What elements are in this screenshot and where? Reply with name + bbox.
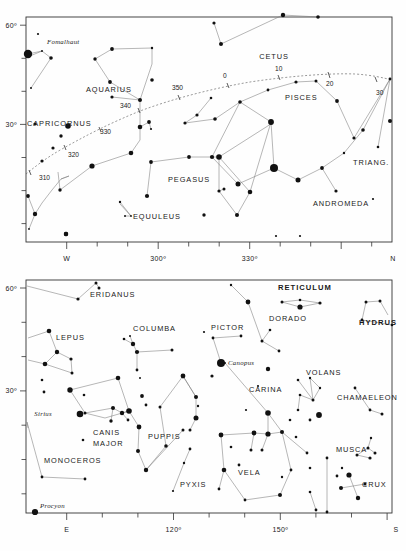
- top-const-CETUS: CETUS: [259, 52, 289, 61]
- ecliptic-label-330: 330: [100, 128, 111, 135]
- top-y-tick-60: 60º: [5, 22, 17, 29]
- top-panel-svg: 60º 30º W 300º 330º N: [0, 0, 406, 275]
- top-const-ANDROMEDA: ANDROMEDA: [313, 199, 369, 208]
- top-const-CAPRICORNUS: CAPRICORNUS: [27, 119, 92, 128]
- bottom-y-axis-ticks: [20, 288, 26, 494]
- bottom-y-tick-60: 60º: [5, 285, 17, 292]
- star-chart-figure: 60º 30º W 300º 330º N: [0, 0, 406, 551]
- bottom-star-label-procyon: Procyon: [39, 502, 65, 509]
- bottom-panel-svg: 60º 30º E 120º 150º S: [0, 270, 406, 551]
- bottom-x-tick-S: S: [393, 526, 398, 533]
- top-const-TRIANG: TRIANG.: [353, 158, 389, 167]
- bottom-const-MONOCEROS: MONOCEROS: [44, 456, 101, 465]
- top-const-PISCES: PISCES: [285, 93, 318, 102]
- bottom-const-DORADO: DORADO: [269, 314, 307, 323]
- bottom-star-label-canopus: Canopus: [228, 359, 254, 366]
- bottom-const-MAJOR: MAJOR: [93, 439, 123, 448]
- bottom-const-MUSCA: MUSCA: [336, 445, 367, 454]
- ecliptic-label-350: 350: [172, 84, 183, 91]
- ecliptic-label-10: 10: [275, 65, 283, 72]
- bottom-const-CARINA: CARINA: [249, 385, 282, 394]
- top-plot-frame: [26, 17, 392, 242]
- bottom-star-label-sirius: Sirius: [34, 410, 52, 417]
- top-sky-panel: 60º 30º W 300º 330º N: [0, 0, 406, 275]
- bottom-sky-panel: 60º 30º E 120º 150º S: [0, 270, 406, 551]
- bottom-y-tick-30: 30º: [5, 387, 17, 394]
- bottom-const-CHAMAELEON: CHAMAELEON: [337, 393, 398, 402]
- top-x-tick-W: W: [63, 255, 70, 262]
- top-const-AQUARIUS: AQUARIUS: [86, 85, 132, 94]
- ecliptic-label-0: 0: [223, 72, 227, 79]
- top-x-axis-ticks: [67, 242, 372, 249]
- ecliptic-label-340: 340: [120, 102, 131, 109]
- bottom-const-RETICULUM: RETICULUM: [278, 283, 332, 292]
- bottom-const-PICTOR: PICTOR: [211, 323, 244, 332]
- bottom-const-PUPPIS: PUPPIS: [148, 432, 181, 441]
- ecliptic-label-320: 320: [68, 151, 79, 158]
- bottom-x-tick-150: 150º: [272, 526, 288, 533]
- top-const-PEGASUS: PEGASUS: [168, 175, 210, 184]
- ecliptic-label-30: 30: [376, 89, 384, 96]
- top-const-EQUULEUS: EQUULEUS: [133, 212, 181, 221]
- bottom-const-ERIDANUS: ERIDANUS: [90, 290, 135, 299]
- bottom-const-VOLANS: VOLANS: [306, 368, 341, 377]
- top-star-label-fomalhaut: Fomalhaut: [46, 38, 80, 45]
- bottom-const-VELA: VELA: [238, 468, 261, 477]
- bottom-x-axis-ticks: [67, 513, 387, 520]
- bottom-const-CANIS: CANIS: [93, 428, 120, 437]
- top-x-tick-N: N: [390, 255, 395, 262]
- bottom-x-tick-120: 120º: [166, 526, 182, 533]
- top-x-tick-330: 330º: [242, 255, 258, 262]
- ecliptic-label-20: 20: [326, 80, 334, 87]
- top-x-tick-300: 300º: [150, 255, 166, 262]
- bottom-const-HYDRUS: HYDRUS: [359, 318, 397, 327]
- bottom-x-tick-E: E: [64, 526, 69, 533]
- bottom-const-COLUMBA: COLUMBA: [133, 324, 176, 333]
- bottom-const-LEPUS: LEPUS: [56, 333, 85, 342]
- bottom-const-CRUX: CRUX: [362, 480, 387, 489]
- ecliptic-label-310: 310: [39, 174, 50, 181]
- top-y-tick-30: 30º: [5, 121, 17, 128]
- bottom-const-PYXIS: PYXIS: [180, 480, 206, 489]
